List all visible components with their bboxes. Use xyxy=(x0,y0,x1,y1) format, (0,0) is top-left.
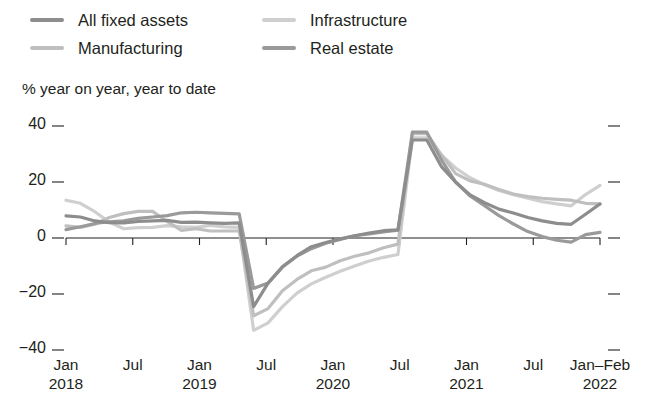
y-axis-tick-label: 0 xyxy=(0,227,46,245)
x-axis-tick-label: Jan–Feb2022 xyxy=(556,356,644,394)
chart-svg xyxy=(0,0,648,410)
x-tick-label-line2: 2022 xyxy=(556,375,644,394)
x-tick-label-line1: Jan xyxy=(187,356,212,373)
x-tick-label-line1: Jul xyxy=(123,356,143,373)
x-tick-label-line2: 2018 xyxy=(22,375,110,394)
chart-container: All fixed assets Manufacturing Infrastru… xyxy=(0,0,648,410)
series-line-all-fixed-assets xyxy=(66,140,600,307)
x-tick-label-line2: 2020 xyxy=(289,375,377,394)
x-tick-label-line1: Jul xyxy=(523,356,543,373)
x-tick-label-line1: Jan xyxy=(54,356,79,373)
x-tick-label-line2: 2021 xyxy=(423,375,511,394)
x-tick-label-line1: Jan xyxy=(454,356,479,373)
series-line-manufacturing xyxy=(66,134,600,316)
y-axis-tick-label: −40 xyxy=(0,339,46,357)
y-axis-tick-label: 20 xyxy=(0,171,46,189)
series-lines xyxy=(66,132,600,330)
x-tick-label-line2: 2019 xyxy=(156,375,244,394)
x-tick-label-line1: Jan–Feb xyxy=(570,356,630,373)
x-tick-label-line1: Jan xyxy=(321,356,346,373)
y-axis-tick-label: 40 xyxy=(0,115,46,133)
x-tick-label-line1: Jul xyxy=(390,356,410,373)
x-tick-label-line1: Jul xyxy=(256,356,276,373)
y-tick-marks-left xyxy=(52,126,64,350)
plot-area: 40200−20−40 Jan2018JulJan2019JulJan2020J… xyxy=(0,0,648,410)
y-tick-marks-right xyxy=(608,126,620,350)
series-line-infrastructure xyxy=(66,138,600,331)
y-axis-tick-label: −20 xyxy=(0,283,46,301)
